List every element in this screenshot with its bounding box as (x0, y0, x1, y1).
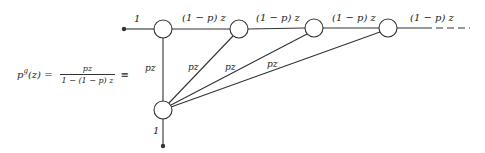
node-4 (379, 19, 397, 37)
forward-label-4: (1 − p) z (410, 12, 454, 23)
exit-edge-2: pz (169, 36, 233, 103)
exit-label-3: pz (225, 62, 236, 72)
exit-label-1: pz (145, 63, 156, 73)
forward-edge-4: (1 − p) z (397, 12, 470, 28)
node-2 (230, 20, 248, 38)
exit-label-4: pz (267, 59, 278, 69)
signal-flow-graph: 1 (1 − p) z (1 − p) z (1 − p) z (1 − p) … (0, 0, 485, 153)
exit-label-2: pz (188, 62, 199, 72)
forward-label-2: (1 − p) z (256, 12, 300, 23)
input-edge: 1 (122, 13, 154, 31)
forward-label-1: (1 − p) z (182, 12, 226, 23)
input-label: 1 (134, 13, 140, 24)
forward-edge-3: (1 − p) z (323, 12, 379, 28)
output-label: 1 (153, 125, 159, 136)
forward-label-3: (1 − p) z (332, 12, 376, 23)
sink-dot (161, 144, 165, 148)
forward-edge-2: (1 − p) z (248, 12, 305, 29)
node-1 (154, 20, 172, 38)
sink-node (154, 101, 172, 119)
output-edge: 1 (153, 119, 165, 148)
node-3 (305, 19, 323, 37)
exit-edge-1: pz (145, 38, 163, 101)
exit-edge-4: pz (171, 32, 380, 107)
forward-edge-1: (1 − p) z (172, 12, 230, 29)
